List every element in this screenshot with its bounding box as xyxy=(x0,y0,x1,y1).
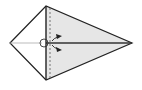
origami-diagram xyxy=(0,0,142,90)
